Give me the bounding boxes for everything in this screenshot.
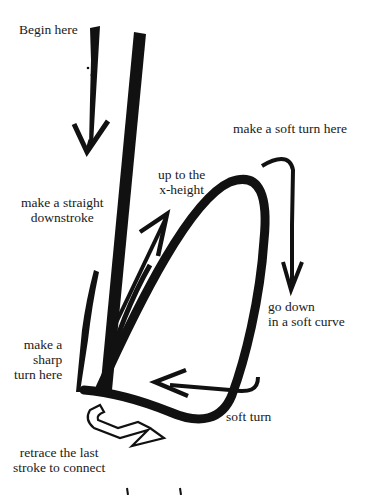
retrace-arrow-icon xyxy=(88,405,164,446)
left-thin-stroke xyxy=(76,270,99,392)
label-up-to-x-height: up to the x-height xyxy=(158,167,205,197)
begin-stroke xyxy=(89,26,100,146)
label-soft-turn-bottom: soft turn xyxy=(226,409,271,424)
label-soft-turn-top: make a soft turn here xyxy=(233,121,347,136)
label-begin-here: Begin here xyxy=(19,22,78,37)
bottom-mark-right xyxy=(180,488,181,495)
label-sharp-turn: make a sharp turn here xyxy=(14,337,62,382)
label-straight-downstroke: make a straight downstroke xyxy=(21,195,103,225)
stroke-diagram xyxy=(0,0,367,495)
bottom-mark-left xyxy=(127,488,128,495)
label-go-down: go down in a soft curve xyxy=(268,299,345,329)
label-retrace: retrace the last stroke to connect xyxy=(13,445,105,475)
